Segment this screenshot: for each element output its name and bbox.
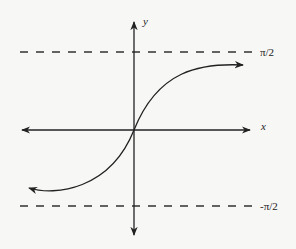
arctan-graph: y x π/2 -π/2 — [0, 0, 296, 249]
y-axis-label: y — [142, 15, 148, 27]
arctan-curve — [29, 65, 243, 191]
lower-asymptote-label: -π/2 — [260, 200, 278, 212]
upper-asymptote-label: π/2 — [260, 46, 274, 58]
x-axis-label: x — [260, 120, 266, 132]
